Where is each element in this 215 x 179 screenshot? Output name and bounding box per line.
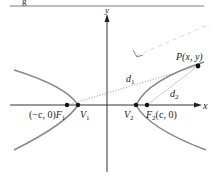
- label-V1: V1: [80, 109, 90, 122]
- y-axis-arrow-icon: [105, 14, 110, 22]
- point-F2: [145, 103, 149, 107]
- y-axis-label: y: [104, 5, 109, 15]
- x-axis-label: x: [202, 100, 208, 111]
- point-F1: [65, 103, 69, 107]
- label-d2: d2: [170, 88, 179, 101]
- caption-fragment: g: [22, 0, 27, 6]
- label-P: P(x, y): [175, 51, 203, 63]
- x-axis-arrow-icon: [194, 103, 202, 108]
- hyperbola-diagram: g y x P(x, y) d1 d2 (−c, 0)F1 V1 V2 F2(c…: [0, 0, 215, 179]
- point-V1: [76, 103, 80, 107]
- point-P: [196, 64, 201, 69]
- point-V2: [134, 103, 138, 107]
- label-V2: V2: [124, 109, 134, 122]
- asymptote-tick-icon: [133, 50, 143, 57]
- label-F1: (−c, 0)F1: [29, 109, 66, 122]
- label-d1: d1: [126, 73, 135, 86]
